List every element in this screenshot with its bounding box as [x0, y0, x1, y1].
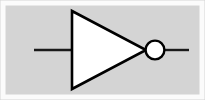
- schematic-canvas: [0, 0, 205, 100]
- not-gate-figure: Digital logic NOT gate: a triangle point…: [0, 0, 205, 100]
- inversion-bubble-icon: [146, 41, 165, 60]
